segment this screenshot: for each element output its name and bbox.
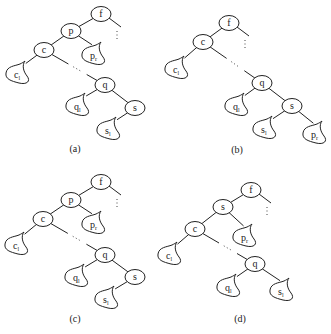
edge-q-q_l (245, 88, 256, 96)
node-f: f (91, 175, 111, 190)
subtree-q_l: ql (66, 93, 89, 116)
edge-c-path-start (51, 54, 68, 64)
subtree-s_l: sl (95, 286, 118, 309)
node-label: q (103, 249, 108, 260)
edge-c-path-start (50, 223, 68, 233)
edge-s-p_r (298, 111, 313, 123)
edge-s-s_l (117, 112, 128, 119)
edge-c-c_l (26, 55, 38, 64)
subtree-c_l: cl (5, 232, 28, 255)
subtree-s_l: sl (270, 278, 293, 301)
edge-q-s (111, 90, 128, 103)
node-c: c (185, 222, 205, 237)
node-q: q (252, 76, 272, 91)
subtree-p_r: pr (303, 121, 326, 144)
subtree-q_l: ql (65, 264, 88, 287)
node-label: p (69, 194, 74, 205)
node-c: c (33, 212, 53, 227)
subtree-s_l: sl (253, 116, 276, 139)
subtree-c_l: cl (6, 61, 29, 84)
subtree-p_r: pr (82, 211, 105, 234)
panel-caption: (d) (234, 313, 246, 325)
subtree-s_l: sl (97, 117, 120, 140)
subtree-q_l: ql (225, 93, 248, 116)
node-label: s (221, 201, 225, 212)
tree-rotation-figure: clprqlslfpcqs(a)clqlslprfcqs(b)clprqlslf… (0, 0, 331, 334)
ellipsis-path-dots (73, 236, 82, 241)
subtree-p_r: pr (82, 42, 105, 65)
node-p: p (61, 193, 81, 208)
panel-caption: (a) (69, 143, 80, 155)
edge-c-c_l (25, 224, 37, 234)
edge-f-right (109, 186, 121, 195)
edge-c-c_l (185, 47, 197, 58)
edge-p-p_r (78, 35, 92, 44)
edge-p-c (50, 204, 65, 214)
node-s: s (282, 99, 302, 114)
edge-s-c (201, 212, 216, 224)
panel-caption: (b) (231, 144, 243, 156)
edge-s-s_l (115, 281, 128, 289)
panel-a: clprqlslfpcqs(a) (6, 7, 145, 156)
node-q: q (95, 248, 115, 263)
edge-path-q-end (86, 244, 98, 251)
node-label: q (260, 77, 265, 88)
edge-f-c (209, 28, 222, 38)
subtree-p_r: pr (233, 224, 256, 247)
node-c: c (34, 43, 54, 58)
node-s: s (125, 270, 145, 285)
node-label: c (41, 213, 46, 224)
node-q: q (95, 78, 115, 93)
node-f: f (219, 16, 239, 31)
edge-p-p_r (78, 204, 92, 213)
node-p: p (61, 24, 81, 39)
edge-path-q-end (237, 254, 248, 260)
node-label: p (69, 25, 74, 36)
edge-f-s (230, 194, 244, 203)
edge-f-right (259, 194, 271, 203)
node-s: s (213, 200, 233, 215)
ellipsis-path-dots (224, 246, 232, 251)
edge-s-s_l (273, 110, 285, 118)
edge-p-c (51, 36, 65, 46)
ellipsis-path-dots (73, 67, 82, 72)
edge-q-q_l (237, 269, 249, 277)
node-q: q (245, 257, 265, 272)
panel-caption: (c) (69, 313, 80, 325)
node-label: s (290, 100, 294, 111)
edge-f-p (78, 186, 94, 196)
panel-b: clqlslprfcqs(b) (165, 16, 326, 157)
node-label: c (193, 223, 198, 234)
node-s: s (125, 101, 145, 116)
edge-f-right (237, 27, 249, 36)
edge-c-path-start (210, 47, 227, 59)
edge-q-s (111, 260, 128, 273)
edge-s-p_r (229, 212, 244, 226)
ellipsis-path-dots (231, 62, 239, 68)
edge-q-s (268, 88, 285, 101)
edge-path-q-end (87, 75, 98, 82)
panel-d: clprqlslfscq(d) (158, 183, 293, 326)
node-label: s (133, 102, 137, 113)
edge-c-path-start (202, 233, 219, 243)
edge-q-q_l (85, 259, 98, 267)
edge-f-right (109, 18, 121, 27)
node-f: f (241, 183, 261, 198)
node-label: c (42, 44, 47, 55)
node-label: q (103, 79, 108, 90)
edge-q-q_l (86, 89, 98, 96)
edge-c-c_l (178, 234, 189, 244)
edge-q-s_l (262, 268, 280, 280)
node-label: s (133, 271, 137, 282)
node-f: f (91, 7, 111, 22)
panel-c: clprqlslfpcqs(c) (5, 175, 145, 326)
edge-f-p (78, 18, 94, 27)
subtree-c_l: cl (158, 242, 181, 265)
subtree-q_l: ql (217, 274, 240, 297)
node-c: c (193, 35, 213, 50)
subtree-c_l: cl (165, 56, 188, 79)
node-label: c (201, 36, 206, 47)
edge-path-q-end (244, 71, 255, 79)
node-label: q (253, 258, 258, 269)
